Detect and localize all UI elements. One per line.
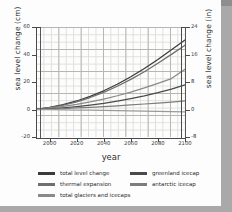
page-corner-block [221, 0, 232, 6]
x-axis-label: year [36, 152, 186, 162]
y-tick-label: 0 [16, 107, 30, 112]
x-tick-label: 2100 [173, 141, 197, 146]
legend-swatch [38, 172, 55, 175]
y-tick-label: -20 [16, 134, 30, 139]
legend-row: total glaciers and icecaps [38, 190, 214, 201]
x-tick-label: 2020 [65, 141, 89, 146]
y-axis-left-inner [40, 27, 41, 138]
y-tick-mark [32, 27, 37, 28]
page-shadow-bottom [0, 206, 232, 212]
y-tick-mark-right [185, 110, 190, 111]
legend-item[interactable]: greenland icecap [130, 171, 214, 177]
plot-area [36, 27, 185, 137]
legend-label: total glaciers and icecaps [60, 193, 130, 199]
legend-row: total level changegreenland icecap [38, 168, 214, 179]
series-line [36, 45, 185, 109]
series-line [36, 110, 185, 112]
chart-legend: total level changegreenland icecaptherma… [38, 168, 214, 201]
page-shadow-right [221, 0, 232, 212]
legend-swatch [38, 194, 55, 197]
y-tick-mark [32, 82, 37, 83]
x-tick-label: 2080 [146, 141, 170, 146]
legend-label: total level change [60, 171, 109, 177]
series-curves [36, 27, 185, 137]
page-root: 6040200-20 241680-8 20002020204020602080… [0, 0, 232, 212]
legend-swatch [130, 172, 147, 175]
y-axis-left-label: sea level change (cm) [13, 1, 22, 97]
series-line [36, 40, 185, 109]
y-tick-label-right: -8 [191, 134, 205, 139]
x-axis-line [36, 138, 186, 139]
y-tick-mark-right [185, 82, 190, 83]
x-tick-label: 2060 [119, 141, 143, 146]
legend-label: antarctic icecap [152, 182, 196, 188]
legend-item[interactable]: thermal expansion [38, 182, 130, 188]
y-tick-mark [32, 55, 37, 56]
x-tick-label: 2000 [38, 141, 62, 146]
x-tick-label: 2040 [92, 141, 116, 146]
legend-label: thermal expansion [60, 182, 111, 188]
legend-swatch [130, 183, 147, 186]
legend-row: thermal expansionantarctic icecap [38, 179, 214, 190]
y-axis-right-inner [181, 27, 182, 138]
legend-swatch [38, 183, 55, 186]
y-tick-mark [32, 110, 37, 111]
legend-item[interactable]: antarctic icecap [130, 182, 214, 188]
y-tick-mark-right [185, 27, 190, 28]
y-tick-mark [32, 137, 37, 138]
y-axis-right-label: sea level change (in) [204, 1, 213, 97]
legend-item[interactable]: total glaciers and icecaps [38, 193, 130, 199]
legend-label: greenland icecap [152, 171, 199, 177]
y-tick-label-right: 0 [191, 107, 205, 112]
legend-item[interactable]: total level change [38, 171, 130, 177]
y-tick-mark-right [185, 55, 190, 56]
